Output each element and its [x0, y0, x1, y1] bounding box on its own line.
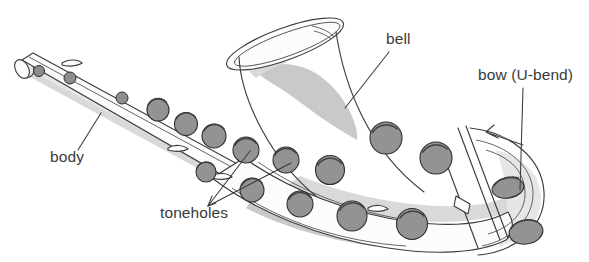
key-post-1 [168, 145, 188, 151]
tonehole-unit [233, 137, 259, 163]
tonehole-unit [397, 209, 428, 240]
tonehole [116, 92, 128, 104]
tonehole-unit [202, 124, 226, 148]
key-post-3 [368, 205, 388, 211]
label-bow: bow (U-bend) [478, 66, 573, 83]
label-bell: bell [386, 30, 411, 47]
tonehole-unit [287, 191, 313, 217]
tonehole [34, 66, 45, 77]
saxophone-diagram: bell bow (U-bend) body toneholes [0, 0, 589, 262]
tonehole [64, 72, 76, 84]
diagram-canvas: bell bow (U-bend) body toneholes [0, 0, 589, 262]
label-toneholes: toneholes [160, 204, 228, 221]
tonehole-unit [370, 122, 402, 154]
tonehole-unit [240, 178, 264, 202]
tonehole-unit [196, 162, 216, 182]
leader-line-bell [345, 52, 389, 108]
tonehole-unit [273, 147, 299, 173]
tonehole-unit [316, 156, 345, 185]
leader-line-bow-arrow [486, 125, 523, 145]
tonehole-unit [337, 201, 367, 231]
leader-line-body [78, 113, 101, 150]
label-body: body [50, 148, 84, 165]
tonehole-unit [420, 142, 452, 174]
neck-key-tab [62, 60, 82, 66]
tonehole-unit [175, 113, 198, 136]
tonehole-unit [147, 98, 169, 121]
bell-interior-shading [252, 64, 357, 140]
